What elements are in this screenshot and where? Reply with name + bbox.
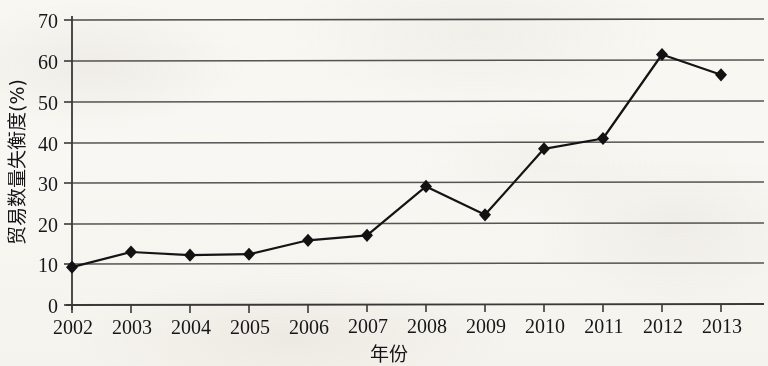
data-point-marker <box>125 245 137 258</box>
data-series-line <box>72 55 721 268</box>
y-tick-label: 60 <box>38 51 58 73</box>
y-tick-label: 30 <box>38 173 58 195</box>
x-axis-title: 年份 <box>370 343 408 365</box>
x-tick-label: 2008 <box>407 315 447 337</box>
data-point-marker <box>243 248 255 261</box>
y-axis-title: 贸易数量失衡度(%) <box>6 79 28 245</box>
x-tick-label: 2006 <box>289 316 329 338</box>
x-tick-label: 2004 <box>171 316 211 338</box>
data-point-marker <box>715 68 727 81</box>
x-tick-label: 2005 <box>230 316 270 338</box>
x-tick-label: 2011 <box>584 315 623 337</box>
x-tick-label: 2010 <box>525 315 565 337</box>
x-tick-label: 2007 <box>348 315 388 337</box>
y-tick-label: 50 <box>38 92 58 114</box>
x-tick-label: 2009 <box>466 315 506 337</box>
y-tick-label: 70 <box>38 10 58 32</box>
y-tick-label: 20 <box>38 214 58 236</box>
y-tick-label: 40 <box>38 133 58 155</box>
data-point-markers <box>66 48 727 274</box>
x-tick-label: 2012 <box>643 315 683 337</box>
data-point-marker <box>184 249 196 262</box>
y-axis-tick-labels: 70 60 50 40 30 20 10 0 <box>38 10 58 317</box>
x-tick-label: 2013 <box>702 315 742 337</box>
data-point-marker <box>302 234 314 247</box>
y-tick-label: 10 <box>38 254 58 276</box>
x-tick-label: 2002 <box>53 316 93 338</box>
x-axis-tick-labels: 2002 2003 2004 2005 2006 2007 2008 2009 … <box>53 315 742 338</box>
chart-figure: 70 60 50 40 30 20 10 0 2002 2003 2004 20… <box>0 0 768 366</box>
data-point-marker <box>66 261 78 274</box>
x-axis-line <box>66 304 764 305</box>
y-tick-label: 0 <box>48 295 58 317</box>
line-chart: 70 60 50 40 30 20 10 0 2002 2003 2004 20… <box>0 0 768 366</box>
x-tick-label: 2003 <box>112 316 152 338</box>
